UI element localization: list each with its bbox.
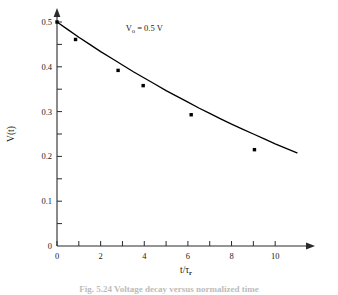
x-tick-label: 6	[186, 251, 190, 261]
y-origin-label: 0	[48, 241, 52, 251]
y-tick-label: 0.4	[41, 62, 52, 72]
x-tick-label: 0	[55, 251, 59, 261]
data-point-marker	[189, 113, 192, 116]
data-curve	[57, 22, 297, 153]
figure-container: 02468100.10.20.30.40.50Vo = 0.5 Vt/τrV(t…	[0, 0, 338, 295]
y-axis-arrow-icon	[54, 8, 61, 17]
decay-plot: 02468100.10.20.30.40.50Vo = 0.5 Vt/τrV(t…	[0, 0, 338, 295]
x-tick-label: 2	[99, 251, 103, 261]
x-axis-title: t/τr	[180, 265, 192, 276]
y-axis-title: V(t)	[6, 126, 17, 142]
x-axis-arrow-icon	[306, 243, 315, 250]
data-point-marker	[116, 69, 119, 72]
data-point-marker	[55, 20, 58, 23]
data-point-marker	[74, 38, 77, 41]
y-tick-label: 0.1	[41, 196, 52, 206]
figure-caption: Fig. 5.24 Voltage decay versus normalize…	[0, 284, 338, 295]
y-tick-label: 0.3	[41, 107, 52, 117]
x-tick-label: 4	[142, 251, 147, 261]
data-point-marker	[141, 84, 144, 87]
y-tick-label: 0.2	[41, 151, 52, 161]
annotation-v0: Vo = 0.5 V	[126, 23, 164, 34]
y-tick-label: 0.5	[41, 17, 52, 27]
x-tick-label: 8	[229, 251, 233, 261]
x-tick-label: 10	[271, 251, 280, 261]
data-point-marker	[253, 148, 256, 151]
